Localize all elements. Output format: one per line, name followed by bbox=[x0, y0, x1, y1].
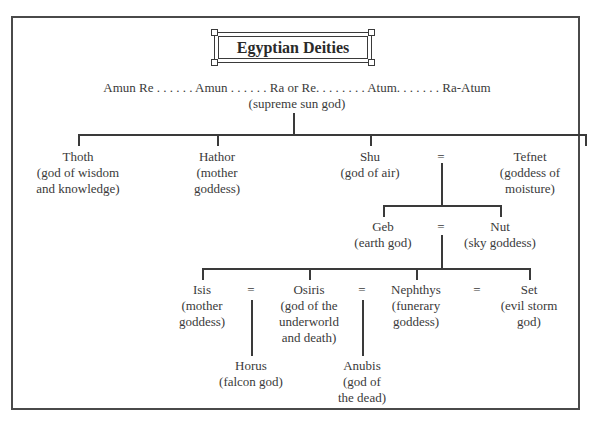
connector-line bbox=[529, 268, 531, 280]
corner-square-icon bbox=[368, 29, 375, 36]
node-isis: Isis (mother goddess) bbox=[162, 282, 242, 330]
connector-line bbox=[78, 134, 80, 146]
connector-line bbox=[416, 268, 418, 280]
connector-line bbox=[370, 134, 372, 146]
node-nut: Nut (sky goddess) bbox=[455, 219, 545, 251]
connector-line bbox=[441, 163, 443, 206]
corner-square-icon bbox=[211, 59, 218, 66]
marriage-symbol: = bbox=[355, 282, 369, 298]
node-tefnet: Tefnet (goddess of moisture) bbox=[480, 149, 580, 197]
connector-line bbox=[383, 205, 501, 207]
connector-line bbox=[500, 205, 502, 217]
node-thoth: Thoth (god of wisdom and knowledge) bbox=[18, 149, 138, 197]
diagram-frame bbox=[11, 16, 580, 410]
node-horus: Horus (falcon god) bbox=[206, 358, 296, 390]
marriage-symbol: = bbox=[244, 282, 258, 298]
node-osiris: Osiris (god of the underworld and death) bbox=[264, 282, 354, 346]
connector-line bbox=[362, 300, 364, 356]
node-hathor: Hathor (mother goddess) bbox=[167, 149, 267, 197]
connector-line bbox=[585, 134, 587, 146]
connector-line bbox=[251, 300, 253, 356]
connector-line bbox=[202, 268, 530, 270]
connector-line bbox=[309, 268, 311, 280]
connector-line bbox=[383, 205, 385, 217]
corner-square-icon bbox=[211, 29, 218, 36]
supreme-names: Amun Re . . . . . . Amun . . . . . . Ra … bbox=[0, 80, 594, 96]
connector-line bbox=[78, 134, 586, 136]
diagram-title: Egyptian Deities bbox=[218, 36, 368, 59]
connector-line bbox=[441, 235, 443, 269]
node-shu: Shu (god of air) bbox=[320, 149, 420, 181]
supreme-desc: (supreme sun god) bbox=[0, 96, 594, 112]
marriage-symbol: = bbox=[470, 282, 484, 298]
corner-square-icon bbox=[368, 59, 375, 66]
connector-line bbox=[202, 268, 204, 280]
node-set: Set (evil storm god) bbox=[489, 282, 569, 330]
title-box: Egyptian Deities bbox=[214, 32, 372, 63]
marriage-symbol: = bbox=[434, 219, 448, 235]
node-supreme-sun-god: Amun Re . . . . . . Amun . . . . . . Ra … bbox=[0, 80, 594, 112]
connector-line bbox=[293, 113, 295, 135]
node-geb: Geb (earth god) bbox=[343, 219, 423, 251]
node-anubis: Anubis (god of the dead) bbox=[322, 358, 402, 406]
node-nephthys: Nephthys (funerary goddess) bbox=[371, 282, 461, 330]
connector-line bbox=[217, 134, 219, 146]
